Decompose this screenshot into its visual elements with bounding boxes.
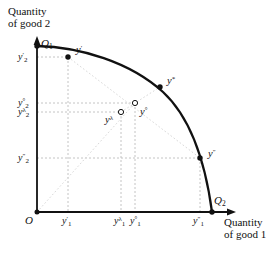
chord-lines <box>37 57 200 212</box>
marker-y-prime <box>65 54 70 59</box>
x-tick-label-y1-prime: y′1 <box>62 215 71 229</box>
y2-prime-sub: 2 <box>24 56 28 64</box>
q2-label: Q2 <box>214 194 226 209</box>
marker-y-star <box>157 84 162 89</box>
y-star-sup: * <box>172 75 176 83</box>
y-double-sup: ″ <box>213 148 216 156</box>
point-label-y-prime: y′ <box>76 44 82 56</box>
origin-label: O <box>25 214 33 226</box>
marker-y-double <box>197 155 202 160</box>
x-tick-label-y1-lambda: yλ1 <box>114 215 125 229</box>
ray-origin-to-y-circ <box>37 103 135 212</box>
y-tick-label-y2-double: y″2 <box>18 152 29 166</box>
point-label-y-double: y″ <box>208 148 216 160</box>
y1-lambda-sub: 1 <box>122 220 126 228</box>
q2-sub: 2 <box>222 199 226 208</box>
q1-sub: 1 <box>49 42 53 51</box>
x-axis-title-line1: Quantity <box>224 216 263 228</box>
guide-lines <box>37 57 200 212</box>
y-tick-label-y2-lambda: yλ2 <box>18 106 29 120</box>
point-label-y-star: y* <box>167 75 175 87</box>
origin-marker <box>35 210 40 215</box>
q2-base: Q <box>214 194 222 206</box>
x-axis-title: Quantity of good 1 <box>224 216 266 241</box>
x-axis-arrowhead <box>227 209 236 216</box>
y-tick-label-y2-prime: y′2 <box>18 51 27 65</box>
y-axis-title-line1: Quantity <box>8 5 47 17</box>
y1-double-sub: 1 <box>200 220 204 228</box>
y2-double-sub: 2 <box>25 157 29 165</box>
y-axis-title: Quantity of good 2 <box>8 5 50 30</box>
marker-q2 <box>209 209 214 214</box>
ppf-figure: Quantity of good 2 Quantity of good 1 O … <box>0 0 278 254</box>
marker-y-circ <box>132 100 137 105</box>
point-label-y-lambda: yλ <box>105 114 113 126</box>
ppf-curve <box>37 46 212 212</box>
marker-q1 <box>34 43 39 48</box>
y-lambda-sup: λ <box>110 114 113 122</box>
q1-label: Q1 <box>41 37 53 52</box>
x-axis-title-line2: of good 1 <box>224 228 266 240</box>
marker-y-lambda <box>118 109 123 114</box>
x-tick-label-y1-double: y″1 <box>193 215 204 229</box>
point-markers <box>34 43 214 214</box>
y1-circ-sub: 1 <box>137 220 141 228</box>
q1-base: Q <box>41 37 49 49</box>
y-axis-title-line2: of good 2 <box>8 17 50 29</box>
y-prime-sup: ′ <box>81 44 83 52</box>
y2-lambda-sub: 2 <box>26 111 30 119</box>
y1-prime-sub: 1 <box>68 220 72 228</box>
point-label-y-circ: y° <box>140 106 147 118</box>
x-tick-label-y1-circ: y°1 <box>130 215 141 229</box>
y-circ-sup: ° <box>145 106 148 114</box>
